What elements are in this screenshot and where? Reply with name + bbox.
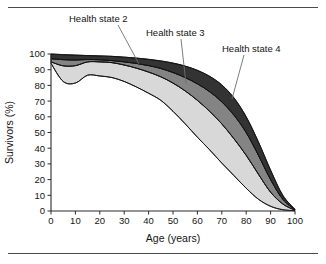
y-tick-label-50: 50 (34, 127, 45, 138)
y-tick-label-100: 100 (29, 48, 45, 59)
annotation-label-health-state-4: Health state 4 (222, 43, 281, 54)
y-tick-label-40: 40 (34, 143, 45, 154)
x-tick-label-20: 20 (95, 215, 106, 226)
x-tick-label-60: 60 (192, 215, 203, 226)
x-axis-title: Age (years) (146, 232, 200, 244)
x-tick-label-50: 50 (168, 215, 179, 226)
x-tick-label-100: 100 (287, 215, 303, 226)
x-tick-label-10: 10 (70, 215, 81, 226)
x-tick-label-70: 70 (217, 215, 228, 226)
leader-line-health-state-4 (232, 55, 244, 99)
y-tick-label-20: 20 (34, 174, 45, 185)
x-tick-label-90: 90 (265, 215, 276, 226)
y-tick-label-90: 90 (34, 64, 45, 75)
band-health-state-2 (51, 62, 295, 211)
y-tick-label-30: 30 (34, 158, 45, 169)
band-areas (51, 54, 295, 211)
figure-container: 0102030405060708090100010203040506070809… (0, 0, 326, 264)
x-tick-label-40: 40 (143, 215, 154, 226)
annotation-label-health-state-3: Health state 3 (146, 27, 205, 38)
x-tick-label-30: 30 (119, 215, 130, 226)
annotation-label-health-state-2: Health state 2 (69, 13, 128, 24)
y-tick-label-0: 0 (40, 205, 45, 216)
y-tick-label-60: 60 (34, 111, 45, 122)
y-tick-label-70: 70 (34, 96, 45, 107)
y-tick-label-10: 10 (34, 190, 45, 201)
x-tick-label-0: 0 (48, 215, 53, 226)
y-tick-label-80: 80 (34, 80, 45, 91)
x-tick-label-80: 80 (241, 215, 252, 226)
survival-curve-chart: 0102030405060708090100010203040506070809… (0, 0, 326, 264)
y-axis-title: Survivors (%) (3, 101, 15, 164)
